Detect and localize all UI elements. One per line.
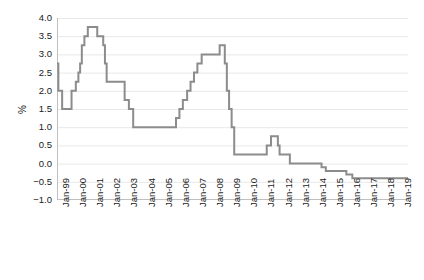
x-tick-label: Jan-02 [112, 178, 122, 207]
x-tick-label: Jan-06 [181, 178, 191, 207]
x-tick-label: Jan-12 [284, 178, 294, 207]
x-tick-label: Jan-99 [61, 178, 71, 207]
x-tick-label: Jan-04 [147, 178, 157, 207]
x-tick-label: Jan-15 [335, 178, 345, 207]
chart-container: % 4.03.53.02.52.01.51.00.50.0−0.5−1.0 Ja… [0, 0, 424, 280]
x-tick-label: Jan-09 [232, 178, 242, 207]
x-tick-label: Jan-18 [386, 178, 396, 207]
x-tick-label: Jan-10 [249, 178, 259, 207]
x-tick-label: Jan-03 [129, 178, 139, 207]
x-axis-tick-labels: Jan-99Jan-00Jan-01Jan-02Jan-03Jan-04Jan-… [0, 0, 424, 280]
x-tick-label: Jan-17 [369, 178, 379, 207]
x-tick-label: Jan-07 [198, 178, 208, 207]
x-tick-label: Jan-19 [403, 178, 413, 207]
x-tick-label: Jan-13 [301, 178, 311, 207]
x-tick-label: Jan-00 [78, 178, 88, 207]
x-tick-label: Jan-14 [318, 178, 328, 207]
x-tick-label: Jan-11 [266, 179, 276, 207]
x-tick-label: Jan-08 [215, 178, 225, 207]
x-tick-label: Jan-05 [164, 178, 174, 207]
x-tick-label: Jan-16 [352, 178, 362, 207]
x-tick-label: Jan-01 [95, 178, 105, 207]
